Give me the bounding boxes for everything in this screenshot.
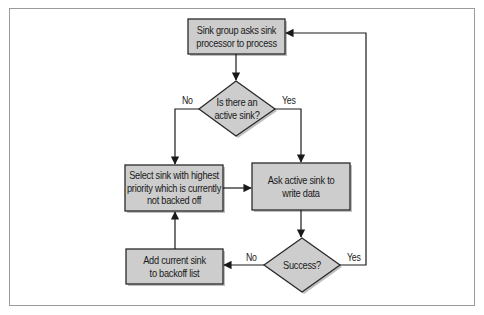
edge-label-active-no: No: [182, 95, 193, 106]
node-decision-active-label: Is there anactive sink?: [204, 81, 271, 136]
node-select-label: Select sink with highestpriority which i…: [125, 165, 224, 211]
edge-decision-no-to-select: [175, 109, 199, 164]
edge-label-success-no: No: [246, 252, 257, 263]
edge-success-yes-to-start: [286, 33, 366, 265]
node-decision-success-label: Success?: [269, 238, 336, 292]
node-start-label: Sink group asks sinkprocessor to process: [194, 19, 279, 54]
edge-decision-yes-to-ask: [275, 109, 301, 162]
edge-label-success-yes: Yes: [347, 252, 361, 263]
node-backoff-label: Add current sinkto backoff list: [132, 249, 217, 284]
edge-label-active-yes: Yes: [282, 95, 296, 106]
node-ask-label: Ask active sink towrite data: [258, 163, 344, 210]
